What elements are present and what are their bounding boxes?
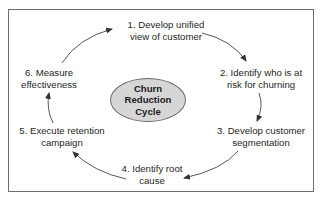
- step-6-line-1: 6. Measure: [12, 67, 86, 79]
- step-4-line-1: 4. Identify root: [112, 163, 192, 175]
- step-2-line-1: 2. Identify who is at: [205, 67, 317, 79]
- step-1-line-2: view of customer: [110, 31, 222, 43]
- step-5-execute-retention: 5. Execute retention campaign: [10, 125, 114, 149]
- step-1-line-1: 1. Develop unified: [110, 19, 222, 31]
- step-6-line-2: effectiveness: [12, 79, 86, 91]
- center-line-2: Reduction: [125, 94, 172, 106]
- step-5-line-1: 5. Execute retention: [10, 125, 114, 137]
- step-5-line-2: campaign: [10, 137, 114, 149]
- step-3-develop-segmentation: 3. Develop customer segmentation: [205, 125, 317, 149]
- step-3-line-1: 3. Develop customer: [205, 125, 317, 137]
- step-4-identify-root-cause: 4. Identify root cause: [112, 163, 192, 187]
- center-line-1: Churn: [134, 83, 162, 95]
- step-1-develop-unified-view: 1. Develop unified view of customer: [110, 19, 222, 43]
- step-4-line-2: cause: [112, 175, 192, 187]
- center-ellipse-churn-reduction-cycle: Churn Reduction Cycle: [110, 78, 186, 122]
- step-3-line-2: segmentation: [205, 137, 317, 149]
- step-2-line-2: risk for churning: [205, 79, 317, 91]
- center-line-3: Cycle: [135, 106, 161, 118]
- step-2-identify-at-risk: 2. Identify who is at risk for churning: [205, 67, 317, 91]
- step-6-measure-effectiveness: 6. Measure effectiveness: [12, 67, 86, 91]
